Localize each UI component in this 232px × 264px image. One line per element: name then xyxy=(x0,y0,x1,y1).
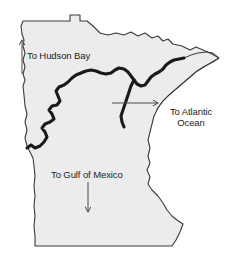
map-graphic xyxy=(0,0,232,264)
label-hudson-bay: To Hudson Bay xyxy=(27,50,90,61)
label-atlantic-ocean-line1: To Atlantic xyxy=(170,106,212,117)
label-hudson-bay-text: To Hudson Bay xyxy=(27,50,90,61)
label-gulf-of-mexico: To Gulf of Mexico xyxy=(51,169,123,180)
minnesota-watershed-map: To Hudson Bay To Atlantic Ocean To Gulf … xyxy=(0,0,232,264)
label-atlantic-ocean: To Atlantic Ocean xyxy=(163,106,219,128)
label-gulf-of-mexico-text: To Gulf of Mexico xyxy=(51,169,123,180)
label-atlantic-ocean-line2: Ocean xyxy=(177,117,205,128)
